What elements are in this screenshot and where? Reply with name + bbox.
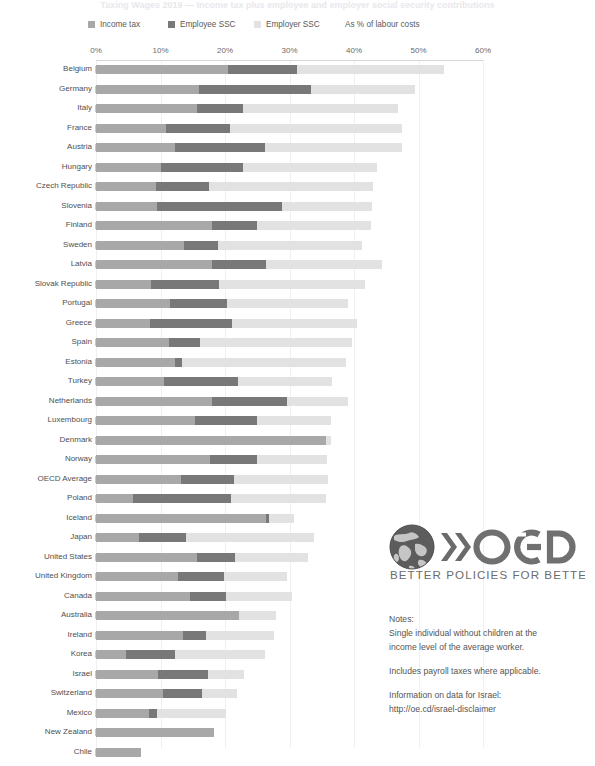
legend-item-employee-ssc[interactable]: Employee SSC <box>168 17 236 31</box>
bar-segment-employer <box>265 143 402 152</box>
bar-segment-income <box>96 397 212 406</box>
bar-segment-employer <box>239 611 276 620</box>
chart-row: Czech Republic <box>0 178 595 198</box>
country-label: Spain <box>0 337 92 346</box>
bar-segment-employee <box>166 124 231 133</box>
bar-segment-employer <box>311 85 415 94</box>
bar-segment-income <box>96 709 149 718</box>
stacked-bar[interactable] <box>96 280 365 289</box>
notes-heading: Notes: <box>389 612 587 626</box>
bar-segment-employer <box>257 416 332 425</box>
chart-row: Spain <box>0 334 595 354</box>
legend-swatch-icon <box>254 21 261 28</box>
stacked-bar[interactable] <box>96 553 308 562</box>
notes-paragraph-3: Information on data for Israel: http://o… <box>389 688 587 716</box>
stacked-bar[interactable] <box>96 709 226 718</box>
chart-row: Canada <box>0 588 595 608</box>
stacked-bar[interactable] <box>96 494 326 503</box>
stacked-bar[interactable] <box>96 104 398 113</box>
bar-segment-employer <box>202 689 237 698</box>
country-label: Denmark <box>0 435 92 444</box>
legend-item-label: Income tax <box>100 20 140 29</box>
bar-segment-employer <box>243 104 398 113</box>
stacked-bar[interactable] <box>96 260 382 269</box>
stacked-bar[interactable] <box>96 689 237 698</box>
bar-segment-employer <box>243 163 377 172</box>
x-axis-tick-label: 10% <box>152 46 168 55</box>
stacked-bar[interactable] <box>96 514 294 523</box>
x-axis-tick-label: 20% <box>217 46 233 55</box>
chart-row: Greece <box>0 315 595 335</box>
chart-row: Netherlands <box>0 393 595 413</box>
bar-segment-income <box>96 221 212 230</box>
notes-line-3: Includes payroll taxes where applicable. <box>389 664 587 678</box>
country-label: Germany <box>0 84 92 93</box>
bar-segment-employer <box>219 280 365 289</box>
stacked-bar[interactable] <box>96 241 362 250</box>
stacked-bar[interactable] <box>96 650 265 659</box>
stacked-bar[interactable] <box>96 319 357 328</box>
bar-segment-employer <box>234 475 328 484</box>
bar-segment-income <box>96 241 184 250</box>
stacked-bar[interactable] <box>96 124 402 133</box>
stacked-bar[interactable] <box>96 221 371 230</box>
stacked-bar[interactable] <box>96 202 372 211</box>
country-label: Sweden <box>0 240 92 249</box>
stacked-bar[interactable] <box>96 397 348 406</box>
country-label: Iceland <box>0 513 92 522</box>
bar-segment-income <box>96 533 139 542</box>
x-axis-tick-label: 0% <box>90 46 102 55</box>
stacked-bar[interactable] <box>96 416 331 425</box>
country-label: Ireland <box>0 630 92 639</box>
stacked-bar[interactable] <box>96 748 141 757</box>
stacked-bar[interactable] <box>96 163 377 172</box>
bar-segment-employee <box>197 104 243 113</box>
legend-item-income-tax[interactable]: Income tax <box>88 17 140 31</box>
stacked-bar[interactable] <box>96 299 348 308</box>
bar-segment-employer <box>232 319 357 328</box>
bar-segment-income <box>96 124 166 133</box>
notes-block: Notes: Single individual without childre… <box>389 612 587 716</box>
stacked-bar[interactable] <box>96 533 314 542</box>
stacked-bar[interactable] <box>96 611 276 620</box>
bar-segment-employer <box>231 494 326 503</box>
stacked-bar[interactable] <box>96 670 244 679</box>
bar-segment-employee <box>197 553 235 562</box>
chart-legend: Income taxEmployee SSCEmployer SSCAs % o… <box>0 17 595 31</box>
stacked-bar[interactable] <box>96 455 327 464</box>
legend-item-employer-ssc[interactable]: Employer SSC <box>254 17 320 31</box>
bar-segment-employer <box>269 514 294 523</box>
bar-segment-employer <box>227 299 348 308</box>
stacked-bar[interactable] <box>96 728 214 737</box>
legend-swatch-icon <box>88 21 95 28</box>
country-label: United Kingdom <box>0 571 92 580</box>
x-axis-tick-label: 40% <box>346 46 362 55</box>
stacked-bar[interactable] <box>96 358 346 367</box>
chart-row: OECD Average <box>0 471 595 491</box>
israel-disclaimer-link[interactable]: http://oe.cd/israel-disclaimer <box>389 702 587 716</box>
chart-row: Turkey <box>0 373 595 393</box>
country-label: Chile <box>0 747 92 756</box>
bar-segment-income <box>96 85 199 94</box>
bar-segment-employer <box>226 592 292 601</box>
stacked-bar[interactable] <box>96 65 444 74</box>
stacked-bar[interactable] <box>96 377 332 386</box>
stacked-bar[interactable] <box>96 338 352 347</box>
country-label: Slovak Republic <box>0 279 92 288</box>
bar-segment-income <box>96 670 158 679</box>
stacked-bar[interactable] <box>96 592 292 601</box>
country-label: New Zealand <box>0 727 92 736</box>
stacked-bar[interactable] <box>96 182 373 191</box>
bar-segment-employee <box>149 709 157 718</box>
stacked-bar[interactable] <box>96 631 274 640</box>
bar-segment-income <box>96 182 156 191</box>
stacked-bar[interactable] <box>96 85 415 94</box>
stacked-bar[interactable] <box>96 436 331 445</box>
bar-segment-employer <box>287 397 348 406</box>
country-label: Czech Republic <box>0 181 92 190</box>
stacked-bar[interactable] <box>96 475 328 484</box>
notes-line-4: Information on data for Israel: <box>389 688 587 702</box>
country-label: Canada <box>0 591 92 600</box>
stacked-bar[interactable] <box>96 143 402 152</box>
stacked-bar[interactable] <box>96 572 287 581</box>
